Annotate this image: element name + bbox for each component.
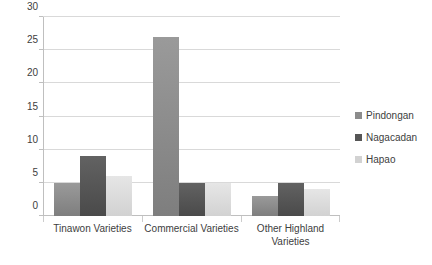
bar [278, 183, 304, 216]
bar-chart: 051015202530 Tinawon VarietiesCommercial… [0, 0, 432, 265]
x-axis-label: Tinawon Varieties [43, 222, 142, 235]
bar [205, 183, 231, 216]
legend: PindonganNagacadanHapao [355, 104, 432, 170]
y-tick-label-15: 15 [6, 102, 38, 112]
y-axis-labels: 051015202530 [0, 17, 38, 216]
y-tick-label-0: 0 [6, 201, 38, 211]
bar [252, 196, 278, 216]
bar-group [142, 17, 241, 216]
y-tick-label-5: 5 [6, 168, 38, 178]
bar [179, 183, 205, 216]
bar [153, 37, 179, 216]
bar-group [241, 17, 340, 216]
y-tick-label-25: 25 [6, 35, 38, 45]
legend-label: Pindongan [366, 110, 414, 121]
y-tick-label-20: 20 [6, 68, 38, 78]
x-axis-label: Other Highland Varieties [241, 222, 340, 248]
legend-swatch-icon [355, 112, 362, 119]
bar [54, 183, 80, 216]
legend-item-nagacadan[interactable]: Nagacadan [355, 126, 432, 148]
y-tick-label-30: 30 [6, 2, 38, 12]
legend-label: Nagacadan [366, 132, 417, 143]
bar [106, 176, 132, 216]
legend-item-pindongan[interactable]: Pindongan [355, 104, 432, 126]
bar [304, 189, 330, 216]
y-tick-label-10: 10 [6, 135, 38, 145]
legend-swatch-icon [355, 134, 362, 141]
x-axis-label: Commercial Varieties [142, 222, 241, 235]
legend-label: Hapao [366, 154, 395, 165]
legend-swatch-icon [355, 156, 362, 163]
x-axis-labels: Tinawon VarietiesCommercial VarietiesOth… [43, 222, 340, 262]
legend-item-hapao[interactable]: Hapao [355, 148, 432, 170]
bars-layer [43, 17, 340, 216]
bar [80, 156, 106, 216]
bar-group [43, 17, 142, 216]
